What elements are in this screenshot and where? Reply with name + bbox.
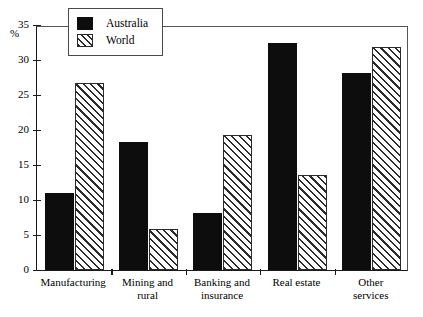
legend-label-australia: Australia [106, 17, 148, 30]
bar-world-3 [298, 175, 327, 270]
bar-group [335, 27, 409, 270]
y-axis-tick-label: 15 [18, 158, 29, 171]
legend-swatch-icon-australia [77, 17, 93, 30]
bar-group [111, 27, 185, 270]
y-axis-tick-label: 25 [18, 88, 29, 101]
x-axis-separator [260, 269, 261, 275]
y-axis-tick-label: 10 [18, 193, 29, 206]
x-axis-separator [335, 269, 336, 275]
legend-swatch-icon-world [77, 34, 93, 47]
bar-world-2 [223, 135, 252, 270]
bar-group [186, 27, 260, 270]
plot-area: 05101520253035 [36, 26, 408, 271]
x-axis-separator [111, 269, 112, 275]
bar-group [37, 27, 111, 270]
x-axis-category-label: Mining and rural [110, 276, 184, 301]
bar-world-0 [75, 83, 104, 270]
bar-australia-4 [342, 73, 371, 270]
x-axis-category-label: Banking and insurance [185, 276, 259, 301]
bar-world-4 [372, 47, 401, 270]
x-axis-separator [186, 269, 187, 275]
bar-australia-2 [193, 213, 222, 270]
bars-layer [37, 27, 407, 270]
x-axis-category-label: Manufacturing [36, 276, 110, 289]
chart-legend: Australia World [68, 8, 163, 56]
y-axis-tick-label: 35 [18, 18, 29, 31]
bar-australia-1 [119, 142, 148, 270]
x-axis-category-label: Other services [334, 276, 408, 301]
x-axis-category-label: Real estate [259, 276, 333, 289]
legend-item-world: World [77, 32, 148, 49]
bar-australia-0 [45, 193, 74, 270]
y-axis-tick-label: 30 [18, 53, 29, 66]
y-axis-tick-label: 20 [18, 123, 29, 136]
y-axis-tick-label: 0 [24, 263, 30, 276]
legend-label-world: World [106, 34, 134, 47]
y-axis-tick-mark [33, 25, 41, 26]
legend-item-australia: Australia [77, 15, 148, 32]
bar-group [260, 27, 334, 270]
y-axis-tick-label: 5 [24, 228, 30, 241]
bar-chart: % 05101520253035 ManufacturingMining and… [0, 0, 423, 317]
bar-world-1 [149, 229, 178, 270]
bar-australia-3 [268, 43, 297, 270]
